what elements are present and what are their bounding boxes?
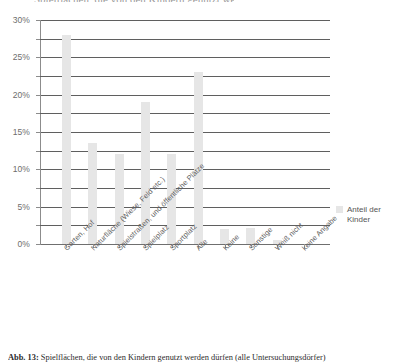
figure-caption-number: Abb. 13:	[8, 353, 39, 362]
cropped-heading-sliver: Spielflächen, die von den Kindern genutz…	[34, 0, 234, 2]
y-axis-tick-labels: 0%5%10%15%20%25%30%	[2, 14, 30, 238]
bar	[194, 72, 203, 244]
y-axis-tick-10: 10%	[2, 165, 30, 173]
y-axis-tick-15: 15%	[2, 128, 30, 136]
figure-container: Spielflächen, die von den Kindern genutz…	[0, 0, 397, 364]
figure-caption: Abb. 13: Spielflächen, die von den Kinde…	[8, 352, 390, 363]
y-tickmark-0	[36, 244, 41, 245]
y-axis-tick-5: 5%	[2, 203, 30, 211]
y-axis-tick-25: 25%	[2, 53, 30, 61]
legend-swatch-anteil-der-kinder	[336, 206, 343, 213]
x-axis-tick-labels: Garten, HofNaturfläche (Wiese, Feld etc.…	[40, 246, 340, 356]
y-axis-tick-30: 30%	[2, 16, 30, 24]
y-axis-tick-0: 0%	[2, 240, 30, 248]
bar-series-group	[40, 20, 330, 244]
y-axis-tick-20: 20%	[2, 91, 30, 99]
figure-caption-text: Spielflächen, die von den Kindern genutz…	[41, 353, 326, 362]
bar	[62, 35, 71, 244]
legend-label-anteil-der-kinder: Anteil der Kinder	[347, 205, 392, 225]
chart-legend: Anteil der Kinder	[336, 205, 394, 225]
